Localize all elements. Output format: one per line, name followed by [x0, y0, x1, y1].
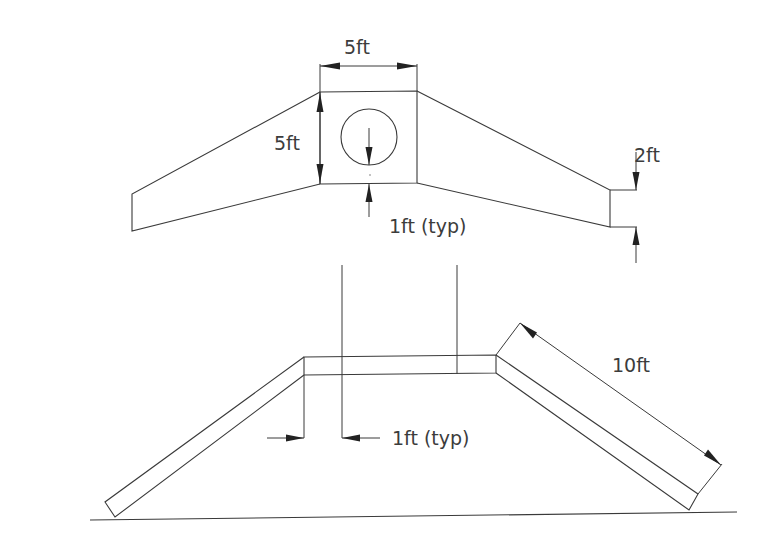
- width-label: 5ft: [344, 36, 370, 58]
- arrow-upleft-icon: [520, 323, 537, 339]
- arrow-down-icon: [633, 172, 640, 190]
- plan-thickness-label: 1ft (typ): [389, 215, 467, 237]
- leg-length-dimension: 10ft: [496, 323, 722, 494]
- elevation-thickness-label: 1ft (typ): [392, 427, 470, 449]
- leg-length-label: 10ft: [612, 354, 650, 376]
- arrow-downright-icon: [704, 450, 721, 466]
- width-dimension: 5ft: [320, 36, 417, 92]
- arrow-down-icon: [317, 164, 324, 183]
- arrow-right-icon: [397, 63, 417, 70]
- ground-line: [90, 512, 737, 520]
- arrow-up-icon: [366, 184, 373, 202]
- arrow-up-icon: [317, 93, 324, 112]
- wing-end-dimension: 2ft: [610, 144, 660, 263]
- wing-end-label: 2ft: [634, 144, 660, 166]
- left-wing: [132, 92, 320, 231]
- right-wing: [417, 91, 610, 227]
- right-leg: [496, 355, 698, 510]
- elevation-thickness-dimension: 1ft (typ): [267, 375, 470, 449]
- arrow-down-icon: [366, 147, 373, 165]
- plan-view: 5ft 5ft 1ft (typ) 2ft: [132, 36, 660, 263]
- arrow-left-icon: [342, 435, 360, 442]
- height-dimension: 5ft: [274, 92, 324, 184]
- top-slab: [304, 355, 496, 375]
- left-leg: [105, 357, 304, 517]
- elevation-view: 10ft 1ft (typ): [90, 265, 737, 520]
- arrow-up-icon: [633, 227, 640, 245]
- drawing-canvas: 5ft 5ft 1ft (typ) 2ft: [0, 0, 778, 557]
- arrow-right-icon: [286, 435, 304, 442]
- center-mark: [369, 174, 371, 176]
- height-label: 5ft: [274, 132, 300, 154]
- arrow-left-icon: [320, 63, 340, 70]
